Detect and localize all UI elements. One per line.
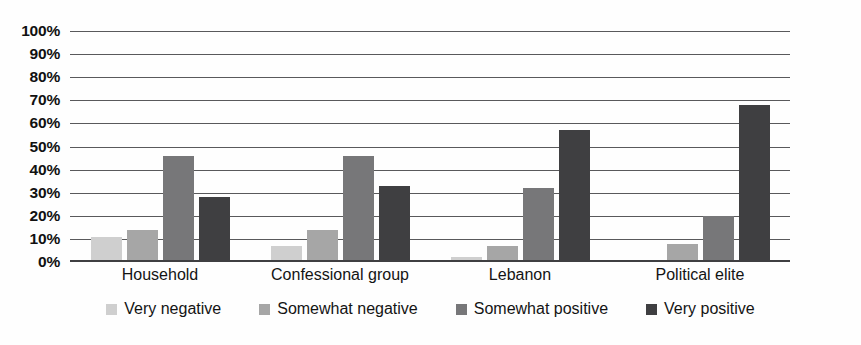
legend-swatch-icon [456, 304, 467, 315]
legend-label: Somewhat positive [474, 300, 608, 318]
y-axis-tick-label: 50% [2, 138, 60, 156]
legend-item[interactable]: Very negative [106, 300, 221, 318]
category-label: Political elite [610, 266, 790, 284]
y-axis-tick-label: 90% [2, 45, 60, 63]
legend-label: Very positive [664, 300, 755, 318]
bar [91, 237, 122, 262]
legend-swatch-icon [106, 304, 117, 315]
legend-item[interactable]: Very positive [646, 300, 755, 318]
bar [127, 230, 158, 262]
bar-group [70, 31, 250, 262]
bar-chart: 100%90%80%70%60%50%40%30%20%10%0% Househ… [0, 0, 861, 345]
y-axis-tick-label: 40% [2, 161, 60, 179]
y-axis-tick-label: 80% [2, 68, 60, 86]
bar [199, 197, 230, 262]
bar [307, 230, 338, 262]
legend-swatch-icon [646, 304, 657, 315]
y-axis-tick-label: 100% [2, 22, 60, 40]
category-label: Household [70, 266, 250, 284]
bar-group [430, 31, 610, 262]
y-axis-tick-label: 70% [2, 91, 60, 109]
y-axis-tick-label: 0% [2, 253, 60, 271]
bar [559, 130, 590, 262]
y-axis-tick-label: 30% [2, 184, 60, 202]
plot-area [70, 31, 790, 262]
bar [343, 156, 374, 262]
bar-group [610, 31, 790, 262]
bar-group [250, 31, 430, 262]
x-axis-line [70, 260, 790, 262]
chart-legend: Very negativeSomewhat negativeSomewhat p… [0, 300, 861, 318]
bar [163, 156, 194, 262]
legend-item[interactable]: Somewhat positive [456, 300, 608, 318]
bar [739, 105, 770, 262]
legend-label: Very negative [124, 300, 221, 318]
bar [703, 216, 734, 262]
category-label: Confessional group [250, 266, 430, 284]
legend-item[interactable]: Somewhat negative [259, 300, 418, 318]
bar [379, 186, 410, 262]
y-axis-tick-label: 10% [2, 230, 60, 248]
legend-label: Somewhat negative [277, 300, 418, 318]
y-axis-tick-label: 20% [2, 207, 60, 225]
category-label: Lebanon [430, 266, 610, 284]
bar [523, 188, 554, 262]
y-axis-tick-label: 60% [2, 114, 60, 132]
legend-swatch-icon [259, 304, 270, 315]
